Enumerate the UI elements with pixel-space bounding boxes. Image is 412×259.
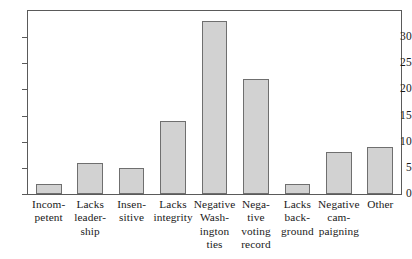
x-axis-category-label-line: Wash- (194, 211, 235, 224)
x-axis-category-label-line: ground (277, 225, 318, 238)
bar-chart: 051015202530 Incom-petentLacksleader-shi… (0, 0, 412, 259)
x-axis-category-label-line: Nega- (235, 198, 276, 211)
bar (367, 147, 393, 194)
bar (202, 21, 228, 194)
x-axis-category-label-line: cam- (318, 211, 359, 224)
x-axis-category-label: Lacksintegrity (152, 198, 193, 225)
x-axis-category-label-line: back- (277, 211, 318, 224)
x-axis-category-label-line: ington (194, 225, 235, 238)
bar (160, 121, 186, 194)
x-axis-category-label-line: Incom- (28, 198, 69, 211)
bars-layer (28, 11, 401, 194)
x-axis-category-label-line: ties (194, 238, 235, 251)
x-axis-category-label-line: Negative (318, 198, 359, 211)
x-axis-category-label: NegativeWash-ingtonties (194, 198, 235, 252)
bar (285, 184, 311, 194)
y-axis-tick (22, 194, 28, 195)
x-axis-category-label-line: tive (235, 211, 276, 224)
x-axis-category-label-line: Lacks (69, 198, 110, 211)
x-axis-category-label-line: record (235, 238, 276, 251)
x-axis-category-label-line: paigning (318, 225, 359, 238)
x-axis-category-label-line: sitive (111, 211, 152, 224)
x-axis-category-label: Insen-sitive (111, 198, 152, 225)
bar (77, 163, 103, 194)
x-axis-category-label-line: leader- (69, 211, 110, 224)
x-axis-category-label-line: Insen- (111, 198, 152, 211)
x-axis-category-label: Incom-petent (28, 198, 69, 225)
x-axis-category-label: Nega-tivevotingrecord (235, 198, 276, 252)
x-axis-category-label-line: ship (69, 225, 110, 238)
bar (326, 152, 352, 194)
x-axis-category-label: Negativecam-paigning (318, 198, 359, 238)
x-axis-category-label-line: voting (235, 225, 276, 238)
x-axis-category-label-line: Lacks (152, 198, 193, 211)
x-axis-category-label: Lacksback-ground (277, 198, 318, 238)
x-axis-category-label-line: petent (28, 211, 69, 224)
x-axis-category-label-line: integrity (152, 211, 193, 224)
x-axis-category-label: Other (360, 198, 401, 211)
x-axis-category-label-line: Other (360, 198, 401, 211)
bar (36, 184, 62, 194)
bar (243, 79, 269, 194)
x-axis-category-label: Lacksleader-ship (69, 198, 110, 238)
x-axis-category-label-line: Negative (194, 198, 235, 211)
x-axis-labels: Incom-petentLacksleader-shipInsen-sitive… (28, 198, 401, 258)
x-axis-category-label-line: Lacks (277, 198, 318, 211)
bar (119, 168, 145, 194)
